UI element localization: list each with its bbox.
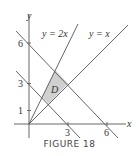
y-tick-label-6: 6 xyxy=(18,38,23,49)
x-tick-label-6: 6 xyxy=(104,127,109,138)
line-x-plus-y-3 xyxy=(16,71,80,138)
line-label-y-2x: y = 2x xyxy=(41,28,68,39)
line-y-x xyxy=(29,25,128,124)
region-label-d: D xyxy=(50,84,59,95)
line-label-y-x: y = x xyxy=(88,28,110,39)
x-tick-label-3: 3 xyxy=(65,127,70,138)
figure-caption: FIGURE 18 xyxy=(0,139,139,149)
y-tick-label-1: 1 xyxy=(18,105,23,116)
line-y-2x xyxy=(29,24,78,124)
figure-diagram: y x 1 3 6 3 6 y = 2x y = x D xyxy=(0,0,139,156)
y-axis-label: y xyxy=(26,10,32,21)
y-tick-label-3: 3 xyxy=(18,78,23,89)
x-axis-label: x xyxy=(126,118,132,129)
